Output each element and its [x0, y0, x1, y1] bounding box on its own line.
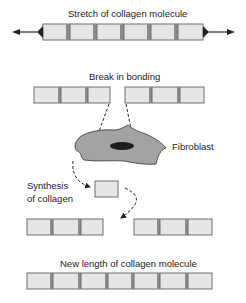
break-right-fragment: [125, 87, 204, 103]
break-left-fragment: [34, 87, 110, 103]
dashed-arrow-synthesis-icon: [73, 161, 90, 187]
stretch-label: Stretch of collagen molecule: [68, 8, 187, 19]
new-length-molecule-row: [27, 273, 212, 289]
dashed-arrow-insert-icon: [121, 188, 136, 218]
rejoin-left-fragment: [27, 219, 103, 235]
stretch-molecule-row: [43, 24, 203, 40]
synthesis-label-line1: Synthesis: [27, 180, 68, 191]
synthesis-label-line2: of collagen: [27, 193, 73, 204]
fibroblast-label: Fibroblast: [172, 141, 214, 152]
synthesized-segment: [95, 181, 118, 197]
new-length-label: New length of collagen molecule: [60, 258, 197, 269]
fibroblast-nucleus: [110, 142, 134, 150]
stretch-arrow-right-icon: [203, 26, 235, 38]
break-label: Break in bonding: [89, 71, 160, 82]
rejoin-right-fragment: [134, 219, 212, 235]
stretch-arrow-left-icon: [12, 26, 43, 38]
